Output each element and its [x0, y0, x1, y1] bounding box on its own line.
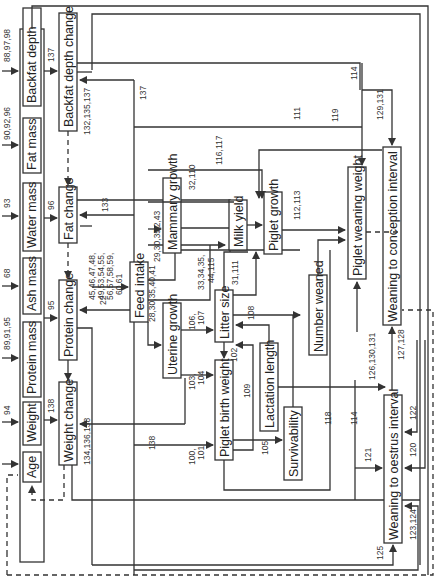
piglet-weaning-weight-label: Piglet weaning weight: [351, 155, 365, 276]
svg-text:33,34,35,: 33,34,35,: [196, 255, 206, 290]
milk-yield-box: Milk yield: [229, 196, 247, 250]
weight-change-label: Weight change: [62, 379, 76, 462]
svg-text:44,115: 44,115: [206, 257, 216, 283]
piglet-weaning-weight-box: Piglet weaning weight: [348, 155, 366, 279]
survivability-box: Survivability: [284, 407, 302, 480]
svg-text:133: 133: [100, 198, 110, 212]
svg-text:129,131: 129,131: [375, 89, 385, 120]
weaning-to-conception-interval-box: Weaning to conception interval: [383, 147, 401, 325]
protein-mass-box: Protein mass: [23, 321, 41, 397]
piglet-growth-box: Piglet growth: [264, 179, 282, 254]
svg-text:60,61: 60,61: [114, 273, 124, 295]
svg-text:105: 105: [260, 441, 270, 455]
svg-text:138: 138: [46, 399, 56, 413]
lactation-length-label: Lactation length: [263, 340, 277, 428]
svg-text:94: 94: [2, 405, 12, 415]
backfat-depth-label: Backfat depth: [25, 27, 39, 103]
svg-text:108: 108: [246, 306, 256, 320]
litter-size-label: Litter size: [218, 285, 232, 339]
svg-text:125: 125: [375, 546, 385, 560]
svg-text:114: 114: [349, 411, 359, 425]
svg-text:109: 109: [242, 384, 252, 398]
svg-text:119: 119: [330, 108, 340, 122]
lactation-length-box: Lactation length: [260, 340, 278, 431]
svg-text:22: 22: [98, 295, 108, 305]
svg-text:93: 93: [2, 198, 12, 208]
backfat-depth-change-label: Backfat depth change: [62, 6, 76, 127]
water-mass-box: Water mass: [23, 182, 41, 251]
svg-text:137: 137: [138, 86, 148, 100]
fat-change-label: Fat change: [62, 177, 76, 240]
svg-text:123,124: 123,124: [408, 509, 418, 540]
age-box: Age: [23, 452, 41, 482]
svg-text:112,113: 112,113: [292, 190, 302, 220]
fat-mass-box: Fat mass: [23, 118, 41, 173]
protein-mass-label: Protein mass: [25, 321, 39, 394]
svg-text:127,128: 127,128: [396, 329, 406, 360]
svg-text:132,135,137: 132,135,137: [82, 87, 92, 135]
svg-text:32,110: 32,110: [187, 164, 197, 190]
svg-text:118: 118: [323, 411, 333, 425]
svg-text:120: 120: [408, 443, 418, 457]
svg-text:122: 122: [408, 406, 418, 420]
svg-text:137: 137: [46, 48, 56, 62]
svg-text:116,117: 116,117: [214, 135, 224, 165]
protein-change-label: Protein change: [62, 273, 76, 357]
svg-text:107: 107: [196, 311, 206, 325]
svg-text:104: 104: [196, 371, 206, 385]
svg-text:121: 121: [363, 448, 373, 462]
sow-model-diagram: Backfat depth Fat mass Water mass Ash ma…: [0, 0, 448, 582]
ash-mass-label: Ash mass: [25, 256, 39, 311]
svg-text:138: 138: [147, 436, 157, 450]
protein-change-box: Protein change: [59, 273, 77, 360]
svg-text:114: 114: [349, 66, 359, 80]
weaning-to-oestrus-interval-label: Weaning to oestrus interval: [387, 389, 401, 540]
svg-text:89,91,95: 89,91,95: [2, 317, 12, 350]
svg-text:31,111: 31,111: [230, 260, 240, 285]
water-mass-label: Water mass: [25, 182, 39, 248]
litter-size-box: Litter size: [215, 285, 233, 342]
weight-change-box: Weight change: [59, 379, 77, 465]
mammary-growth-box: Mammary growth: [163, 153, 181, 253]
fat-change-box: Fat change: [59, 177, 77, 243]
uterine-growth-box: Uterine growth: [163, 294, 181, 378]
fat-mass-label: Fat mass: [25, 119, 39, 170]
svg-text:68: 68: [2, 268, 12, 278]
backfat-depth-change-box: Backfat depth change: [59, 6, 77, 131]
survivability-label: Survivability: [287, 410, 301, 477]
svg-text:95: 95: [46, 300, 56, 310]
weaning-to-oestrus-interval-box: Weaning to oestrus interval: [384, 389, 402, 543]
svg-text:126,130,131: 126,130,131: [367, 332, 377, 380]
piglet-growth-label: Piglet growth: [267, 179, 281, 251]
feed-intake-label: Feed intake: [133, 253, 147, 318]
state-to-change-arrows: 137 96 95 138: [44, 48, 57, 420]
age-label: Age: [25, 456, 39, 478]
svg-text:134,136,138: 134,136,138: [82, 417, 92, 465]
piglet-birth-weight-label: Piglet birth weight: [218, 358, 232, 457]
ash-mass-box: Ash mass: [23, 256, 41, 314]
weaning-to-conception-interval-label: Weaning to conception interval: [386, 151, 400, 322]
svg-text:28,30,35,40,41: 28,30,35,40,41: [147, 265, 157, 322]
weight-label: Weight: [25, 403, 39, 442]
piglet-birth-weight-box: Piglet birth weight: [215, 358, 233, 460]
svg-text:42,43: 42,43: [152, 210, 162, 232]
state-inputs: 88,97,98 90,92,96 93 68 89,91,95 94: [2, 29, 18, 464]
uterine-growth-label: Uterine growth: [166, 294, 180, 375]
weight-box: Weight: [23, 402, 41, 445]
svg-text:90,92,96: 90,92,96: [2, 107, 12, 140]
svg-text:96: 96: [46, 200, 56, 210]
milk-yield-label: Milk yield: [232, 196, 246, 247]
svg-text:88,97,98: 88,97,98: [2, 29, 12, 62]
svg-text:111: 111: [292, 107, 302, 120]
number-weaned-label: Number weaned: [312, 260, 326, 352]
svg-text:101: 101: [196, 446, 206, 460]
feed-intake-box: Feed intake: [130, 253, 148, 322]
